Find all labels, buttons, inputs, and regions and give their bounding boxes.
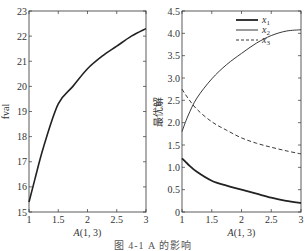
axes-frame (29, 11, 146, 212)
x-tick-label: 1.5 (206, 214, 219, 225)
series-line-x1 (182, 158, 301, 203)
fval-plot: 11.522.53151617181920212223A(1, 3)fval (0, 6, 149, 240)
y-tick-label: 4.0 (168, 28, 181, 39)
figure-caption: 图 4-1 A 的影响 (0, 237, 306, 251)
x-tick-label: 2 (85, 214, 90, 225)
y-tick-label: 0.5 (168, 184, 181, 195)
legend: x1x2x3 (236, 14, 270, 47)
optimal-solution-plot: 11.522.5300.51.01.52.02.53.03.54.04.5A(1… (152, 6, 304, 240)
y-tick-label: 21 (17, 56, 27, 67)
series-line-x2 (182, 30, 301, 132)
y-tick-label: 19 (17, 106, 27, 117)
x-tick-label: 2.5 (265, 214, 278, 225)
x-tick-label: 2.5 (111, 214, 124, 225)
y-tick-label: 22 (17, 31, 27, 42)
x-tick-label: 1 (27, 214, 32, 225)
y-tick-label: 3.5 (168, 50, 181, 61)
y-tick-label: 2.5 (168, 95, 181, 106)
series-line-x3 (182, 89, 301, 154)
y-axis-label: 最优解 (152, 97, 164, 127)
y-tick-label: 15 (17, 207, 27, 218)
series-line-fval (29, 29, 146, 202)
x-tick-label: 3 (299, 214, 304, 225)
y-tick-label: 23 (17, 6, 27, 17)
y-tick-label: 0 (175, 207, 180, 218)
y-tick-label: 17 (17, 156, 27, 167)
y-tick-label: 3.0 (168, 73, 181, 84)
y-tick-label: 4.5 (168, 6, 181, 17)
x-tick-label: 1.5 (52, 214, 65, 225)
y-tick-label: 2.0 (168, 117, 181, 128)
figure: 11.522.53151617181920212223A(1, 3)fval 1… (0, 0, 306, 251)
y-tick-label: 16 (17, 181, 27, 192)
x-tick-label: 3 (144, 214, 149, 225)
x-tick-label: 2 (239, 214, 244, 225)
x-tick-label: 1 (180, 214, 185, 225)
y-tick-label: 18 (17, 131, 27, 142)
y-tick-label: 1.0 (168, 162, 181, 173)
y-axis-label: fval (0, 104, 11, 120)
y-tick-label: 1.5 (168, 140, 181, 151)
y-tick-label: 20 (17, 81, 27, 92)
